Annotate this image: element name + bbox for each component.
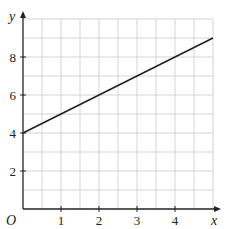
x-axis-label: x <box>210 213 218 228</box>
y-tick-label: 2 <box>10 164 17 179</box>
line-chart: 12342468 x y O <box>0 0 227 229</box>
origin-label: O <box>6 213 16 228</box>
grid-lines <box>23 19 213 209</box>
x-tick-label: 4 <box>172 213 179 228</box>
y-tick-label: 4 <box>10 126 17 141</box>
x-tick-label: 2 <box>96 213 103 228</box>
x-tick-label: 1 <box>58 213 65 228</box>
x-tick-label: 3 <box>134 213 141 228</box>
axes <box>20 11 221 212</box>
x-axis-arrow-icon <box>214 206 221 212</box>
y-tick-label: 6 <box>10 88 17 103</box>
y-tick-label: 8 <box>10 50 17 65</box>
y-axis-arrow-icon <box>20 11 26 18</box>
y-axis-label: y <box>7 9 16 24</box>
